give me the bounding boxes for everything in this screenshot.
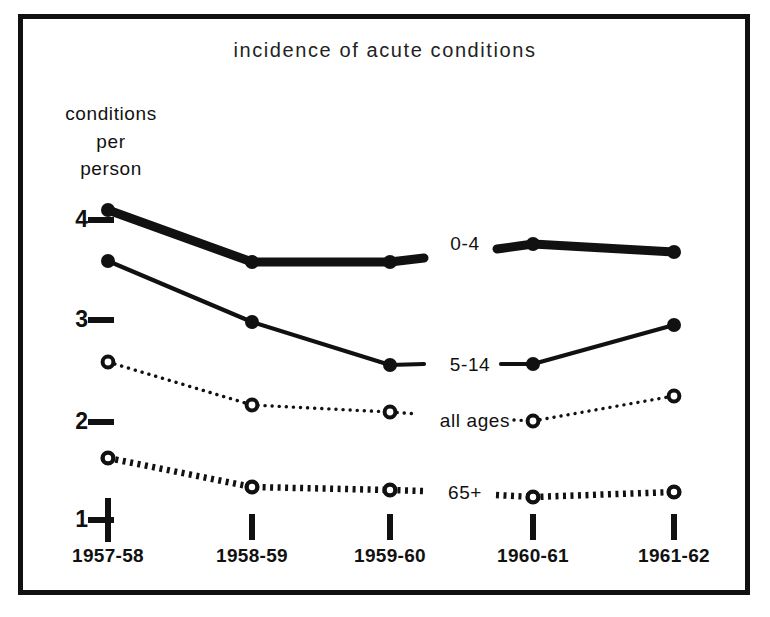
series-5-14-segment-a (108, 261, 390, 365)
y-tick-mark-4 (88, 217, 114, 223)
series-line-5-14 (101, 254, 681, 372)
series-all-ages-point-1959-60 (385, 407, 396, 418)
x-tick-mark-1959-60 (387, 514, 393, 540)
series-0-4-point-1957-58 (101, 203, 115, 217)
series-65plus-point-1958-59 (247, 482, 258, 493)
series-65plus-point-1961-62 (669, 487, 680, 498)
series-65plus-segment-d (533, 492, 674, 497)
x-tick-mark-1958-59 (249, 514, 255, 540)
chart-plot-area (0, 0, 770, 617)
series-0-4-segment-d (533, 244, 674, 252)
y-tick-mark-3 (88, 317, 114, 323)
series-0-4-point-1961-62 (667, 245, 681, 259)
series-all-ages-point-1958-59 (247, 400, 258, 411)
series-all-ages-point-1957-58 (103, 357, 114, 368)
series-5-14-segment-d (533, 325, 674, 364)
series-5-14-point-1960-61 (526, 357, 540, 371)
x-tick-mark-1961-62 (671, 514, 677, 540)
series-all-ages-point-1961-62 (669, 391, 680, 402)
series-0-4-point-1958-59 (245, 255, 259, 269)
series-5-14-point-1959-60 (383, 358, 397, 372)
x-axis-ticks (105, 498, 677, 542)
y-tick-mark-2 (88, 419, 114, 425)
series-line-65plus (103, 453, 680, 503)
series-65plus-point-1959-60 (385, 485, 396, 496)
x-tick-mark-1957-58 (105, 498, 111, 542)
chart-figure: incidence of acute conditions conditions… (0, 0, 770, 617)
series-65plus-point-1960-61 (528, 492, 539, 503)
series-all-ages-point-1960-61 (528, 416, 539, 427)
series-line-0-4 (101, 203, 681, 269)
series-0-4-point-1960-61 (526, 237, 540, 251)
series-0-4-point-1959-60 (383, 255, 397, 269)
x-tick-mark-1960-61 (530, 514, 536, 540)
series-5-14-point-1957-58 (101, 254, 115, 268)
series-5-14-point-1958-59 (245, 315, 259, 329)
series-5-14-point-1961-62 (667, 318, 681, 332)
series-all-ages-segment-d (533, 396, 674, 421)
series-65plus-point-1957-58 (103, 453, 114, 464)
series-0-4-segment-a (108, 210, 390, 262)
